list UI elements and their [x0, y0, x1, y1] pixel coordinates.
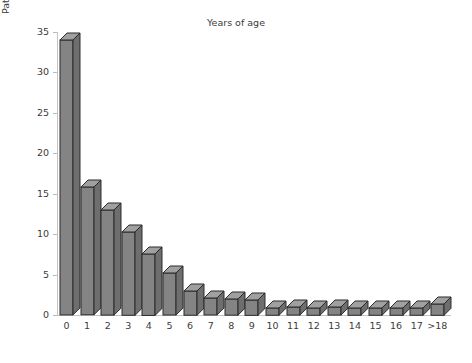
bar: [306, 300, 328, 316]
bar: [265, 300, 287, 316]
bar: [141, 246, 163, 316]
bar: [80, 179, 102, 316]
bar-front-face: [410, 308, 423, 315]
y-tick-mark: [53, 275, 57, 276]
bar-front-face: [225, 299, 238, 315]
y-tick-label: 10: [27, 229, 49, 239]
y-tick-mark: [53, 32, 57, 33]
bar-front-face: [101, 210, 114, 315]
bar-front-face: [348, 308, 361, 315]
bar: [430, 296, 452, 316]
y-tick-label: 15: [27, 189, 49, 199]
bar: [59, 32, 81, 316]
y-tick-label: 20: [27, 148, 49, 158]
y-tick-label: 5: [27, 270, 49, 280]
bar-front-face: [163, 273, 176, 315]
bar-front-face: [390, 308, 403, 315]
y-tick-mark: [53, 72, 57, 73]
bar-front-face: [184, 291, 197, 315]
y-tick-mark: [53, 153, 57, 154]
x-tick-label: >18: [419, 321, 455, 331]
x-axis-title-text: Years of age: [207, 17, 265, 28]
y-tick-label: 30: [27, 67, 49, 77]
bar: [100, 202, 122, 316]
y-tick-mark: [53, 234, 57, 235]
y-tick-mark: [53, 194, 57, 195]
y-axis-line: [57, 32, 58, 316]
y-tick-mark: [53, 113, 57, 114]
y-axis-title-text: Patients (%): [0, 0, 11, 14]
bar: [224, 291, 246, 316]
bar-front-face: [307, 308, 320, 315]
bar-front-face: [328, 307, 341, 315]
y-tick-mark: [53, 315, 57, 316]
y-axis-title: Patients (%): [0, 0, 11, 14]
bar-front-face: [204, 298, 217, 315]
bar-front-face: [245, 300, 258, 315]
bar-front-face: [369, 308, 382, 315]
bar-chart: Patients (%) Years of age 05101520253035…: [0, 0, 472, 363]
x-axis-title: Years of age: [0, 11, 472, 30]
bar: [203, 290, 225, 316]
y-tick-label: 35: [27, 27, 49, 37]
bar-front-face: [60, 40, 73, 315]
bar: [368, 300, 390, 316]
y-tick-label: 25: [27, 108, 49, 118]
bar: [121, 224, 143, 316]
bar: [409, 300, 431, 316]
bar: [244, 292, 266, 316]
bar: [347, 300, 369, 316]
y-tick-label: 0: [27, 310, 49, 320]
bar-front-face: [287, 307, 300, 315]
bar-front-face: [142, 254, 155, 315]
bar-front-face: [81, 187, 94, 315]
bar-front-face: [122, 232, 135, 315]
bar-front-face: [431, 304, 444, 315]
bar: [286, 299, 308, 316]
bar: [389, 300, 411, 316]
bar: [162, 265, 184, 316]
bar: [327, 299, 349, 316]
bar: [183, 283, 205, 316]
bar-front-face: [266, 308, 279, 315]
